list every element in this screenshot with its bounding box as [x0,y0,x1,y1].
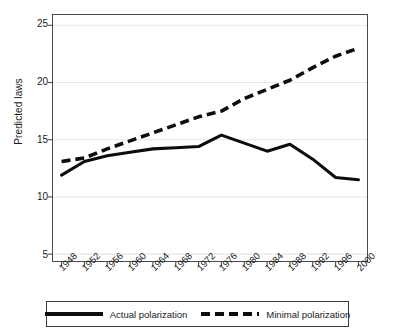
x-tick-label: 2000 [355,251,377,273]
x-tick-label: 1996 [332,251,354,273]
x-tick-label: 1948 [57,251,79,273]
x-tick-label: 1952 [80,251,102,273]
x-tick-label: 1964 [149,251,171,273]
legend-item-actual-polarization: Actual polarization [45,309,188,320]
x-tick-label: 1992 [309,251,331,273]
x-axis-tick-labels: 1948195219561960196419681972197619801984… [0,0,395,335]
legend-item-minimal-polarization: Minimal polarization [201,309,350,320]
legend-label-minimal: Minimal polarization [266,309,350,320]
x-tick-label: 1960 [126,251,148,273]
x-tick-label: 1980 [240,251,262,273]
x-tick-label: 1984 [263,251,285,273]
x-tick-label: 1968 [172,251,194,273]
chart-legend: Actual polarization Minimal polarization [46,301,349,327]
legend-swatch-solid-line [45,312,103,315]
chart-figure: Predicted laws 510152025 194819521956196… [0,0,395,335]
legend-label-actual: Actual polarization [110,309,188,320]
legend-swatch-dashed-line [201,312,259,315]
x-tick-label: 1976 [217,251,239,273]
x-tick-label: 1988 [286,251,308,273]
x-tick-label: 1972 [195,251,217,273]
x-tick-label: 1956 [103,251,125,273]
